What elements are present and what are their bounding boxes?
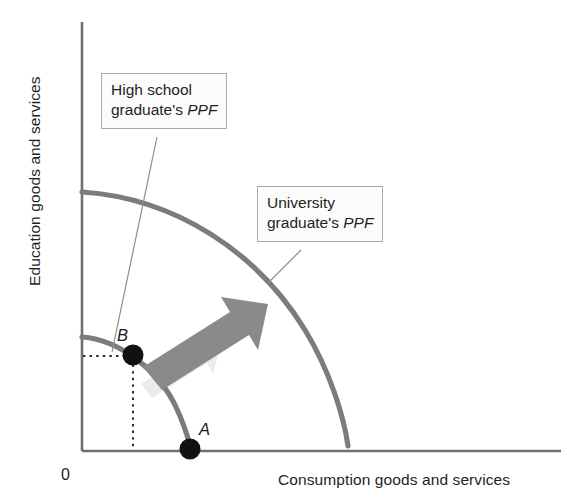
callout-university-line1: University [267,193,373,213]
x-axis-title: Consumption goods and services [278,471,510,489]
callout-university-line2-emphasis: PPF [343,214,373,231]
origin-label: 0 [61,466,70,484]
leader-line-highschool [112,137,157,352]
ppf-plot-canvas [0,0,567,502]
callout-university-line2: graduate's PPF [267,213,373,233]
callout-highschool-ppf: High school graduate's PPF [101,73,227,129]
point-a-marker [180,439,201,460]
shift-arrow-icon [143,297,268,390]
y-axis-title: Education goods and services [26,76,44,286]
ppf-figure: Education goods and services Consumption… [0,0,567,502]
point-b-marker [123,345,144,366]
callout-highschool-line2-emphasis: PPF [187,101,217,118]
point-b-label: B [117,326,128,345]
callout-highschool-line1: High school [111,80,217,100]
leader-line-university [268,250,301,283]
callout-highschool-line2-text: graduate's [111,101,187,118]
point-a-label: A [199,420,210,439]
callout-university-ppf: University graduate's PPF [257,186,383,242]
callout-highschool-line2: graduate's PPF [111,100,217,120]
callout-university-line2-text: graduate's [267,214,343,231]
